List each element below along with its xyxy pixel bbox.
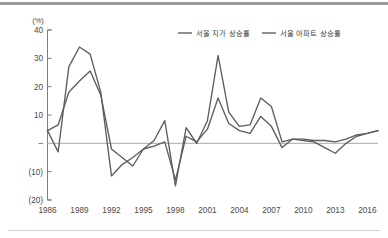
x-tick-label: 1986: [38, 206, 57, 215]
y-tick-label: 40: [34, 26, 44, 35]
x-tick-label: 2004: [230, 206, 249, 215]
y-tick-label: (20): [28, 196, 43, 205]
x-tick-label: 1998: [166, 206, 185, 215]
x-tick-label: 2001: [198, 206, 217, 215]
x-tick-label: 2007: [262, 206, 281, 215]
y-tick-label: 10: [34, 111, 44, 120]
line-chart-svg: 40302010–(10)(20) (%) 198619891992199519…: [0, 0, 388, 238]
x-tick-label: 1992: [102, 206, 121, 215]
y-axis-tick-labels: 40302010–(10)(20): [28, 26, 43, 205]
y-axis-unit-label: (%): [32, 16, 44, 25]
legend-label: 서울 지가 상승률: [196, 29, 250, 38]
y-tick-label: 20: [34, 83, 44, 92]
y-tick-label: (10): [28, 168, 43, 177]
legend-label: 서울 아파트 상승률: [280, 29, 341, 38]
x-axis-tick-labels: 1986198919921995199820012004200720102013…: [38, 206, 376, 215]
series-line: [48, 47, 379, 186]
x-tick-label: 1995: [134, 206, 153, 215]
series-paths: [48, 47, 379, 186]
y-tick-label: –: [38, 139, 43, 148]
x-tick-label: 1989: [70, 206, 89, 215]
y-axis-ticks: [48, 30, 52, 200]
x-tick-label: 2016: [358, 206, 377, 215]
chart-legend: 서울 지가 상승률서울 아파트 상승률: [178, 29, 341, 38]
x-tick-label: 2013: [326, 206, 345, 215]
y-tick-label: 30: [34, 54, 44, 63]
bottom-divider-rule: [8, 230, 380, 231]
x-tick-label: 2010: [294, 206, 313, 215]
chart-figure: 40302010–(10)(20) (%) 198619891992199519…: [0, 0, 388, 238]
